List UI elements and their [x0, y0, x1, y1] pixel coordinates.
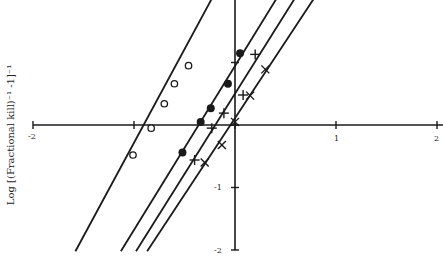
y-tick-label-neg2: -2 — [214, 246, 222, 255]
open-circle-marker — [161, 101, 167, 107]
y-tick-label-neg1: -1 — [214, 183, 222, 192]
x-tick-label-1: 1 — [334, 134, 339, 143]
filled-circle-marker — [178, 149, 186, 157]
open-circle-marker — [130, 152, 136, 158]
x-tick-label-2: 2 — [434, 134, 439, 143]
x-tick-label-neg2: -2 — [28, 132, 36, 141]
filled-circle-marker — [207, 104, 215, 112]
filled-circle-marker — [197, 118, 205, 126]
open-circle-marker — [171, 81, 177, 87]
filled-circle-marker — [236, 49, 244, 57]
filled-circle-marker — [224, 80, 232, 88]
chart-plot — [0, 0, 443, 267]
open-circle-marker — [148, 125, 154, 131]
y-axis-label: Log [(Fractional kill)⁻¹ -1]⁻¹ — [5, 35, 19, 235]
open-circle-marker — [185, 62, 191, 68]
